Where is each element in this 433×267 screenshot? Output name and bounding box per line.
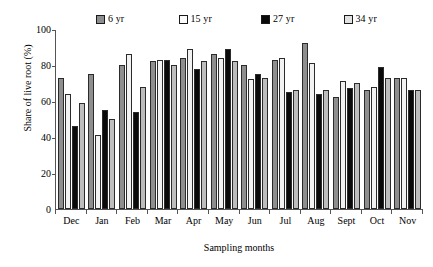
x-tick-mark-4 bbox=[177, 210, 178, 214]
legend-item-15yr: 15 yr bbox=[179, 12, 262, 26]
bar-jan-15yr bbox=[95, 135, 101, 209]
x-axis-title: Sampling months bbox=[55, 242, 423, 253]
x-tick-mark-12 bbox=[422, 210, 423, 214]
bar-sept-6yr bbox=[333, 97, 339, 209]
bar-jul-6yr bbox=[272, 60, 278, 209]
bar-aug-34yr bbox=[323, 90, 329, 209]
x-tick-label-aug: Aug bbox=[301, 215, 332, 229]
bar-jun-15yr bbox=[248, 79, 254, 209]
bar-feb-27yr bbox=[133, 112, 139, 209]
bar-mar-34yr bbox=[171, 65, 177, 209]
bar-mar-6yr bbox=[150, 61, 156, 209]
bar-mar-27yr bbox=[164, 60, 170, 209]
bar-group-jul bbox=[270, 29, 301, 209]
x-tick-mark-11 bbox=[391, 210, 392, 214]
x-tick-mark-0 bbox=[55, 210, 56, 214]
legend-item-6yr: 6 yr bbox=[96, 12, 179, 26]
y-tick-mark-20 bbox=[52, 174, 55, 175]
bar-apr-15yr bbox=[187, 49, 193, 209]
legend-item-34yr: 34 yr bbox=[344, 12, 427, 26]
bar-aug-15yr bbox=[309, 63, 315, 209]
bar-group-jun bbox=[239, 29, 270, 209]
bar-apr-27yr bbox=[194, 69, 200, 209]
bar-may-15yr bbox=[218, 58, 224, 209]
y-tick-mark-60 bbox=[52, 102, 55, 103]
legend-label-6yr: 6 yr bbox=[108, 14, 124, 24]
bar-sept-15yr bbox=[340, 81, 346, 209]
x-tick-label-apr: Apr bbox=[178, 215, 209, 229]
bar-group-dec bbox=[56, 29, 87, 209]
y-tick-label-0: 0 bbox=[21, 205, 51, 215]
y-tick-label-60: 60 bbox=[21, 97, 51, 107]
bar-aug-27yr bbox=[316, 94, 322, 209]
bar-may-27yr bbox=[225, 49, 231, 209]
bar-aug-6yr bbox=[302, 43, 308, 209]
bar-nov-27yr bbox=[408, 90, 414, 209]
x-tick-label-feb: Feb bbox=[117, 215, 148, 229]
bar-apr-6yr bbox=[180, 58, 186, 209]
chart-legend: 6 yr 15 yr 27 yr 34 yr bbox=[96, 11, 426, 27]
bar-jun-27yr bbox=[255, 74, 261, 209]
plot-area: 020406080100 bbox=[55, 30, 423, 210]
bar-feb-6yr bbox=[119, 65, 125, 209]
bar-jun-6yr bbox=[241, 65, 247, 209]
bar-may-34yr bbox=[232, 61, 238, 209]
y-tick-label-40: 40 bbox=[21, 133, 51, 143]
bar-dec-27yr bbox=[72, 126, 78, 209]
x-tick-mark-6 bbox=[239, 210, 240, 214]
bar-chart-figure: 6 yr 15 yr 27 yr 34 yr Share of live roo… bbox=[0, 0, 433, 267]
x-tick-mark-8 bbox=[300, 210, 301, 214]
bar-group-nov bbox=[392, 29, 423, 209]
bar-group-apr bbox=[178, 29, 209, 209]
bar-nov-15yr bbox=[401, 78, 407, 209]
legend-item-27yr: 27 yr bbox=[261, 12, 344, 26]
y-tick-mark-100 bbox=[52, 30, 55, 31]
x-tick-mark-1 bbox=[86, 210, 87, 214]
bar-sept-27yr bbox=[347, 88, 353, 209]
x-tick-label-nov: Nov bbox=[392, 215, 423, 229]
bar-jun-34yr bbox=[262, 78, 268, 209]
bar-dec-34yr bbox=[79, 103, 85, 209]
bar-oct-6yr bbox=[364, 90, 370, 209]
x-axis-tick-labels: DecJanFebMarAprMayJunJulAugSeptOctNov bbox=[56, 215, 423, 229]
legend-label-34yr: 34 yr bbox=[356, 14, 377, 24]
bar-jul-15yr bbox=[279, 58, 285, 209]
y-tick-label-80: 80 bbox=[21, 61, 51, 71]
bar-nov-6yr bbox=[394, 78, 400, 209]
legend-label-27yr: 27 yr bbox=[273, 14, 294, 24]
bar-feb-34yr bbox=[140, 87, 146, 209]
legend-swatch-15yr bbox=[179, 15, 188, 24]
x-tick-label-oct: Oct bbox=[362, 215, 393, 229]
legend-swatch-6yr bbox=[96, 15, 105, 24]
bar-jul-27yr bbox=[286, 92, 292, 209]
bar-group-feb bbox=[117, 29, 148, 209]
y-tick-label-20: 20 bbox=[21, 169, 51, 179]
bar-dec-15yr bbox=[65, 94, 71, 209]
y-tick-mark-80 bbox=[52, 66, 55, 67]
bar-group-aug bbox=[301, 29, 332, 209]
y-tick-mark-40 bbox=[52, 138, 55, 139]
x-tick-label-may: May bbox=[209, 215, 240, 229]
bar-may-6yr bbox=[211, 54, 217, 209]
x-tick-label-sept: Sept bbox=[331, 215, 362, 229]
bar-oct-15yr bbox=[371, 87, 377, 209]
x-tick-label-mar: Mar bbox=[148, 215, 179, 229]
bar-group-may bbox=[209, 29, 240, 209]
y-tick-label-100: 100 bbox=[21, 25, 51, 35]
bar-jan-27yr bbox=[102, 110, 108, 209]
x-tick-mark-10 bbox=[361, 210, 362, 214]
bar-group-mar bbox=[148, 29, 179, 209]
bar-apr-34yr bbox=[201, 61, 207, 209]
bar-nov-34yr bbox=[415, 90, 421, 209]
bar-oct-27yr bbox=[378, 67, 384, 209]
x-tick-label-dec: Dec bbox=[56, 215, 87, 229]
bar-sept-34yr bbox=[354, 83, 360, 209]
bar-jan-34yr bbox=[109, 119, 115, 209]
legend-swatch-27yr bbox=[261, 15, 270, 24]
bar-group-sept bbox=[331, 29, 362, 209]
bar-oct-34yr bbox=[385, 78, 391, 209]
x-tick-mark-7 bbox=[269, 210, 270, 214]
bar-groups bbox=[56, 29, 423, 209]
x-tick-mark-9 bbox=[330, 210, 331, 214]
x-tick-mark-3 bbox=[147, 210, 148, 214]
